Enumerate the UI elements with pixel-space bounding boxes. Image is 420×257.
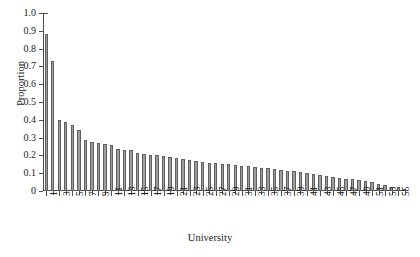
y-tick-label: 0.6 xyxy=(10,79,36,89)
x-tick-label: 43 xyxy=(324,187,334,197)
x-tick-mark xyxy=(151,191,152,196)
y-tick-label: 0.3 xyxy=(10,133,36,143)
y-axis-tick-labels: 00.10.20.30.40.50.60.70.80.91.0 xyxy=(10,0,36,257)
bar xyxy=(58,120,61,191)
x-tick-mark xyxy=(111,191,112,196)
x-tick-label: 55 xyxy=(402,187,412,197)
x-tick-mark xyxy=(294,191,295,196)
x-tick-label: 27 xyxy=(219,187,229,197)
bar xyxy=(71,125,74,191)
x-tick-mark xyxy=(203,191,204,196)
y-tick-mark xyxy=(39,173,43,174)
y-tick-label: 0.8 xyxy=(10,44,36,54)
y-tick-mark xyxy=(39,49,43,50)
x-tick-mark xyxy=(138,191,139,196)
y-tick-mark xyxy=(39,155,43,156)
y-tick-label: 0.1 xyxy=(10,168,36,178)
y-tick-mark xyxy=(39,84,43,85)
x-tick-label: 21 xyxy=(180,187,190,197)
bar-series xyxy=(43,13,408,191)
x-tick-label: 3 xyxy=(63,191,73,196)
bar xyxy=(64,122,67,191)
y-tick-label: 0.2 xyxy=(10,150,36,160)
bar xyxy=(116,149,119,191)
x-tick-mark xyxy=(177,191,178,196)
y-tick-mark xyxy=(39,13,43,14)
x-tick-label: 31 xyxy=(245,187,255,197)
x-tick-label: 41 xyxy=(310,187,320,197)
bar xyxy=(84,140,87,191)
x-tick-label: 15 xyxy=(141,187,151,197)
x-tick-label: 37 xyxy=(284,187,294,197)
x-tick-mark xyxy=(46,191,47,196)
x-tick-label: 29 xyxy=(232,187,242,197)
x-tick-label: 51 xyxy=(376,187,386,197)
x-tick-label: 23 xyxy=(193,187,203,197)
bar xyxy=(45,34,48,191)
y-tick-mark xyxy=(39,138,43,139)
x-tick-label: 7 xyxy=(89,191,99,196)
x-tick-label: 53 xyxy=(389,187,399,197)
x-tick-label: 9 xyxy=(102,191,112,196)
y-tick-label: 0.4 xyxy=(10,115,36,125)
x-tick-label: 5 xyxy=(76,191,86,196)
y-tick-mark xyxy=(39,120,43,121)
bar xyxy=(77,130,80,191)
x-tick-mark xyxy=(229,191,230,196)
bar-chart-figure: Proportion 00.10.20.30.40.50.60.70.80.91… xyxy=(0,0,420,257)
y-tick-label: 0 xyxy=(10,186,36,196)
x-tick-label: 25 xyxy=(206,187,216,197)
x-tick-mark xyxy=(268,191,269,196)
x-tick-mark xyxy=(85,191,86,196)
x-tick-mark xyxy=(307,191,308,196)
x-tick-mark xyxy=(242,191,243,196)
x-tick-mark xyxy=(281,191,282,196)
x-tick-mark xyxy=(255,191,256,196)
x-tick-mark xyxy=(98,191,99,196)
x-tick-mark xyxy=(190,191,191,196)
y-tick-label: 0.7 xyxy=(10,61,36,71)
x-tick-label: 47 xyxy=(350,187,360,197)
x-tick-mark xyxy=(320,191,321,196)
bar xyxy=(123,150,126,191)
x-tick-mark xyxy=(216,191,217,196)
x-tick-mark xyxy=(124,191,125,196)
x-tick-label: 11 xyxy=(115,187,125,196)
x-tick-label: 49 xyxy=(363,187,373,197)
x-tick-label: 13 xyxy=(128,187,138,197)
x-axis-title: University xyxy=(0,232,420,243)
x-axis-tick-labels: 1357911131517192123252729313335373941434… xyxy=(43,196,408,224)
y-tick-mark xyxy=(39,31,43,32)
x-tick-label: 17 xyxy=(154,187,164,197)
bar xyxy=(103,144,106,191)
bar xyxy=(97,143,100,191)
x-tick-label: 35 xyxy=(271,187,281,197)
bar xyxy=(51,61,54,191)
x-tick-label: 39 xyxy=(297,187,307,197)
y-tick-label: 1.0 xyxy=(10,8,36,18)
y-tick-label: 0.9 xyxy=(10,26,36,36)
y-tick-label: 0.5 xyxy=(10,97,36,107)
x-tick-label: 1 xyxy=(50,191,60,196)
x-tick-label: 45 xyxy=(337,187,347,197)
bar xyxy=(129,150,132,191)
y-tick-mark xyxy=(39,66,43,67)
bar xyxy=(110,145,113,191)
x-tick-label: 19 xyxy=(167,187,177,197)
x-tick-mark xyxy=(164,191,165,196)
x-tick-label: 33 xyxy=(258,187,268,197)
y-tick-mark xyxy=(39,102,43,103)
bar xyxy=(90,142,93,191)
plot-area xyxy=(43,13,408,191)
